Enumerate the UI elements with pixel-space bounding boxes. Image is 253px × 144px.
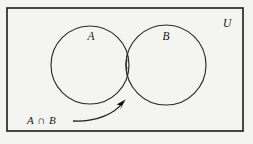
venn-diagram-canvas: A B U A ∩ B <box>0 0 253 144</box>
universal-set-label: U <box>223 17 232 29</box>
set-b-label: B <box>162 30 169 42</box>
venn-diagram-figure: A B U A ∩ B <box>0 0 253 144</box>
set-a-label: A <box>86 30 95 42</box>
universe-frame <box>7 8 243 131</box>
intersection-callout-label: A ∩ B <box>26 114 56 126</box>
callout-arrow-line <box>73 102 123 121</box>
